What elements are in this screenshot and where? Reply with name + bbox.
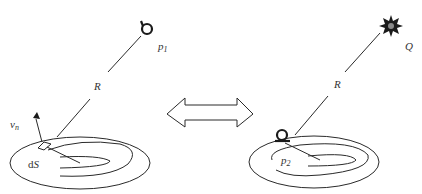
surface-element-leader bbox=[47, 147, 80, 163]
right-distance-line-lower bbox=[295, 96, 328, 135]
left-panel: p1 R vn dS bbox=[10, 21, 168, 189]
left-middle-ring bbox=[48, 142, 133, 176]
left-R-label: R bbox=[93, 80, 101, 92]
receiver-icon bbox=[275, 130, 290, 141]
star-burst-source-icon bbox=[379, 15, 403, 37]
vn-label: vn bbox=[10, 118, 19, 132]
left-inner-ring bbox=[60, 157, 110, 169]
right-distance-line-upper bbox=[345, 33, 380, 72]
reciprocity-diagram: p1 R vn dS R bbox=[0, 0, 422, 194]
right-inner-ring bbox=[308, 155, 356, 166]
left-distance-line-lower bbox=[57, 99, 90, 137]
p2-label: p2 bbox=[280, 154, 291, 168]
left-distance-line-upper bbox=[108, 36, 141, 72]
normal-vector-line bbox=[36, 119, 42, 142]
dS-label: dS bbox=[28, 158, 40, 170]
diagram-canvas: p1 R vn dS R bbox=[0, 0, 422, 194]
right-panel: R Q p2 bbox=[249, 15, 413, 188]
p1-label: p1 bbox=[157, 40, 168, 54]
Q-label: Q bbox=[405, 40, 413, 52]
right-R-label: R bbox=[333, 78, 341, 90]
double-arrow-icon bbox=[167, 98, 253, 127]
receiver-icon bbox=[141, 21, 152, 34]
normal-vector-arrowhead bbox=[33, 112, 40, 119]
surface-element-patch bbox=[38, 142, 51, 150]
p2-leader bbox=[285, 143, 320, 160]
